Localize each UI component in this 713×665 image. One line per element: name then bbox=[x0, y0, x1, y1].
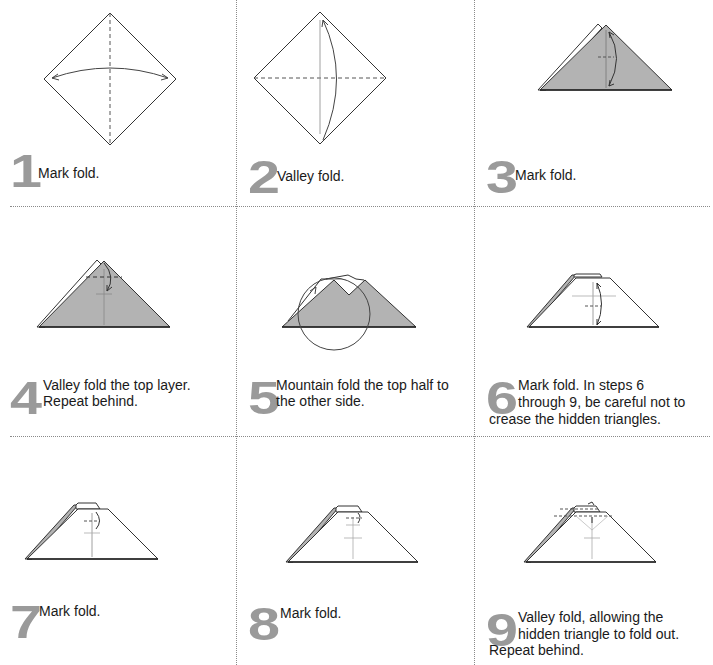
origami-instruction-grid: 1 Mark fold. 2 Valley fold. 3 Mark fold. bbox=[0, 0, 713, 665]
step-number: 4 bbox=[10, 375, 39, 421]
step-5-panel: 5 Mountain fold the top half to the othe… bbox=[238, 207, 474, 436]
step-1-panel: 1 Mark fold. bbox=[0, 0, 236, 206]
step-4-panel: 4 Valley fold the top layer. Repeat behi… bbox=[0, 207, 236, 436]
step-caption: through 9, be careful not to bbox=[518, 394, 685, 410]
column-divider bbox=[236, 0, 237, 665]
step-number: 7 bbox=[10, 599, 39, 645]
step-number: 5 bbox=[248, 375, 277, 421]
step-caption: Mark fold. bbox=[39, 603, 100, 619]
step-caption: Mountain fold the top half to bbox=[276, 377, 449, 393]
step-caption: hidden triangle to fold out. bbox=[518, 626, 679, 642]
step-caption: Mark fold. bbox=[280, 605, 341, 621]
step-caption: Repeat behind. bbox=[43, 393, 138, 409]
step-7-panel: 7 Mark fold. bbox=[0, 437, 236, 665]
step-2-panel: 2 Valley fold. bbox=[238, 0, 474, 206]
step-caption: Mark fold. bbox=[515, 167, 576, 183]
step-number: 3 bbox=[486, 154, 515, 200]
step-8-panel: 8 Mark fold. bbox=[238, 437, 474, 665]
step-caption: Mark fold. bbox=[38, 165, 99, 181]
step-caption: Mark fold. In steps 6 bbox=[518, 377, 644, 393]
step-number: 1 bbox=[10, 148, 39, 194]
step-caption: the other side. bbox=[276, 393, 365, 409]
step-3-panel: 3 Mark fold. bbox=[476, 0, 713, 206]
step-number: 8 bbox=[248, 601, 277, 647]
step-9-panel: 9 Valley fold, allowing the hidden trian… bbox=[476, 437, 713, 665]
step-caption: crease the hidden triangles. bbox=[489, 411, 661, 427]
step-6-panel: 6 Mark fold. In steps 6 through 9, be ca… bbox=[476, 207, 713, 436]
column-divider bbox=[474, 0, 475, 665]
step-caption: Valley fold the top layer. bbox=[43, 377, 191, 393]
step-caption: Valley fold. bbox=[277, 168, 344, 184]
step-number: 2 bbox=[248, 154, 277, 200]
step-caption: Repeat behind. bbox=[489, 642, 584, 658]
step-caption: Valley fold, allowing the bbox=[518, 609, 663, 625]
